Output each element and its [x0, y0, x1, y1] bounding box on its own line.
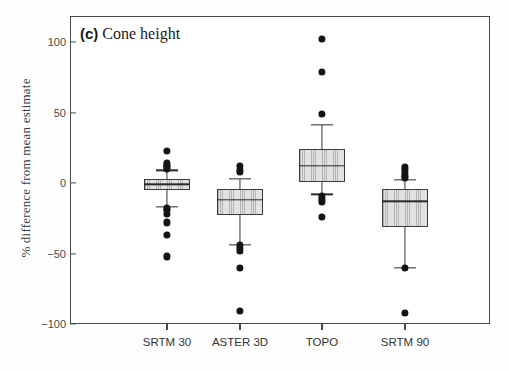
- x-tick-mark: [404, 324, 405, 330]
- page-title: (c) Cone height: [80, 25, 180, 43]
- x-tick-mark: [321, 324, 322, 330]
- median-line: [299, 165, 345, 166]
- box-iqr: [382, 189, 428, 227]
- y-tick-label: −100: [26, 318, 66, 330]
- panel-tag: (c): [80, 25, 98, 42]
- y-tick-label: 100: [26, 36, 66, 48]
- x-tick-label-srtm-90: SRTM 90: [355, 336, 455, 348]
- y-tick-mark: [70, 41, 76, 42]
- box-iqr: [217, 189, 263, 216]
- panel-title-text: Cone height: [102, 25, 180, 42]
- y-tick-mark: [70, 182, 76, 183]
- median-line: [144, 184, 190, 185]
- y-tick-mark: [70, 253, 76, 254]
- y-tick-mark: [70, 323, 76, 324]
- y-tick-label: −50: [26, 248, 66, 260]
- whisker-cap-upper: [229, 178, 251, 179]
- plot-frame: [70, 16, 490, 324]
- whisker-upper: [321, 125, 322, 149]
- y-tick-mark: [70, 112, 76, 113]
- median-line: [382, 201, 428, 202]
- median-line: [217, 199, 263, 200]
- whisker-upper: [404, 180, 405, 188]
- whisker-lower: [404, 227, 405, 268]
- y-tick-label: 0: [26, 177, 66, 189]
- cone-height-boxplot-figure: % difference from mean estimate (c) Cone…: [0, 0, 509, 371]
- whisker-cap-upper: [311, 125, 333, 126]
- y-tick-label: 50: [26, 107, 66, 119]
- x-tick-mark: [239, 324, 240, 330]
- x-tick-mark: [166, 324, 167, 330]
- whisker-upper: [239, 179, 240, 189]
